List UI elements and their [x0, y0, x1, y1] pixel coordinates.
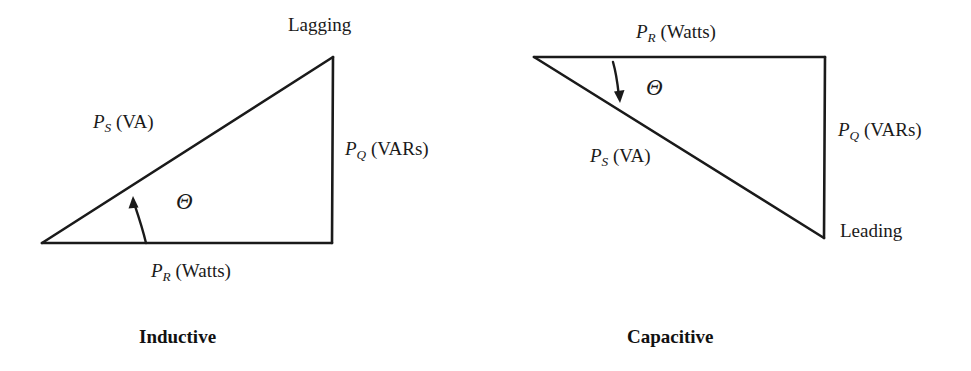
- capacitive-caption: Capacitive: [627, 327, 714, 346]
- inductive-horizontal-unit: (Watts): [175, 260, 230, 281]
- inductive-caption: Inductive: [139, 327, 216, 346]
- inductive-angle-arrowhead: [129, 196, 139, 209]
- inductive-vertical-label: PQ (VARs): [345, 139, 429, 158]
- inductive-hypotenuse-symbol: P: [93, 111, 105, 132]
- capacitive-angle-arrowhead: [614, 90, 625, 103]
- inductive-theta-symbol: Θ: [176, 190, 193, 213]
- inductive-vertical-symbol: P: [345, 138, 357, 159]
- inductive-horizontal-subscript: R: [163, 269, 171, 284]
- capacitive-hypotenuse-unit: (VA): [613, 145, 651, 166]
- inductive-vertical-line: [332, 57, 333, 243]
- triangles-canvas: [0, 0, 971, 371]
- inductive-corner-label-lagging: Lagging: [288, 15, 351, 34]
- capacitive-hypotenuse-subscript: S: [602, 154, 609, 169]
- capacitive-theta-symbol: Θ: [646, 76, 663, 99]
- power-triangle-figure: Lagging PS (VA) Θ PQ (VARs) PR (Watts) I…: [0, 0, 971, 371]
- inductive-vertical-subscript: Q: [357, 147, 367, 162]
- inductive-triangle: [42, 57, 333, 243]
- capacitive-hypotenuse-symbol: P: [590, 145, 602, 166]
- capacitive-vertical-unit: (VARs): [864, 119, 922, 140]
- inductive-vertical-unit: (VARs): [371, 138, 429, 159]
- capacitive-horizontal-unit: (Watts): [660, 21, 715, 42]
- capacitive-vertical-label: PQ (VARs): [838, 120, 922, 139]
- capacitive-vertical-symbol: P: [838, 119, 850, 140]
- capacitive-vertical-subscript: Q: [850, 128, 860, 143]
- capacitive-hypotenuse-label: PS (VA): [590, 146, 651, 165]
- inductive-horizontal-symbol: P: [151, 260, 163, 281]
- capacitive-horizontal-label: PR (Watts): [636, 22, 716, 41]
- inductive-hypotenuse-unit: (VA): [116, 111, 154, 132]
- inductive-hypotenuse-line: [42, 57, 333, 243]
- capacitive-vertical-line: [824, 57, 825, 238]
- inductive-hypotenuse-label: PS (VA): [93, 112, 154, 131]
- inductive-horizontal-label: PR (Watts): [151, 261, 231, 280]
- capacitive-horizontal-symbol: P: [636, 21, 648, 42]
- capacitive-horizontal-subscript: R: [648, 30, 656, 45]
- inductive-hypotenuse-subscript: S: [105, 120, 112, 135]
- capacitive-corner-label-leading: Leading: [840, 221, 902, 240]
- capacitive-triangle: [534, 57, 825, 238]
- capacitive-hypotenuse-line: [534, 57, 824, 238]
